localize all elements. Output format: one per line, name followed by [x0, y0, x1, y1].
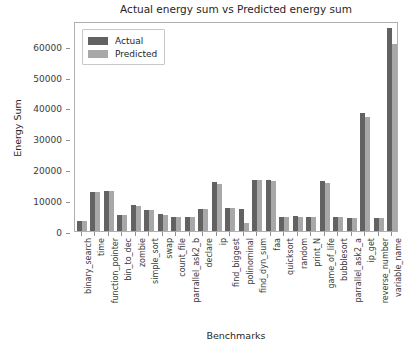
x-tick-label: bin_to_dec	[124, 238, 133, 281]
bar-predicted	[298, 217, 303, 232]
bar-predicted	[82, 221, 87, 231]
x-tick-label: zombie	[138, 238, 147, 267]
bar-predicted	[379, 218, 384, 231]
y-axis: Energy Sum 01000020000300004000050000600…	[0, 22, 74, 233]
y-tick-mark	[66, 79, 70, 80]
bar-group	[306, 23, 316, 231]
x-tick-label: faa	[273, 238, 282, 251]
x-tick-label: quicksort	[286, 238, 295, 275]
x-tick-label: simple_sort	[151, 238, 160, 284]
bar-predicted	[95, 192, 100, 231]
bar-predicted	[257, 180, 262, 231]
bar-group	[266, 23, 276, 231]
x-tick-mark	[229, 232, 230, 236]
x-tick-label: bubblesort	[340, 238, 349, 281]
y-tick-label: 40000	[33, 104, 62, 114]
bar-predicted	[230, 208, 235, 231]
bar-predicted	[311, 217, 316, 232]
bar-group	[360, 23, 370, 231]
x-tick-mark	[94, 232, 95, 236]
x-tick-label: function_pointer	[111, 238, 120, 303]
legend-item: Predicted	[88, 47, 157, 60]
bar-group	[279, 23, 289, 231]
x-tick-label: ip	[219, 238, 228, 245]
x-tick-mark	[216, 232, 217, 236]
bar-predicted	[217, 184, 222, 231]
x-tick-mark	[148, 232, 149, 236]
bar-group	[225, 23, 235, 231]
x-axis: binary_searchtimefunction_pointerbin_to_…	[74, 232, 398, 327]
legend-label: Predicted	[115, 49, 157, 59]
x-axis-label: Benchmarks	[74, 330, 398, 341]
x-tick-label: polinominal	[246, 238, 255, 285]
x-tick-mark	[283, 232, 284, 236]
bar-predicted	[352, 218, 357, 231]
bar-predicted	[163, 215, 168, 231]
x-tick-label: game_of_life	[327, 238, 336, 289]
x-tick-label: declare	[205, 238, 214, 268]
x-tick-mark	[324, 232, 325, 236]
bar-predicted	[325, 183, 330, 231]
bar-group	[347, 23, 357, 231]
bar-predicted	[136, 206, 141, 231]
bar-predicted	[203, 209, 208, 231]
legend-label: Actual	[115, 36, 143, 46]
bar-predicted	[338, 217, 343, 231]
bar-group	[252, 23, 262, 231]
x-tick-label: print_N	[313, 238, 322, 267]
x-tick-mark	[189, 232, 190, 236]
bar-group	[171, 23, 181, 231]
plot-area: ActualPredicted	[74, 22, 398, 232]
x-tick-mark	[256, 232, 257, 236]
y-tick-mark	[66, 202, 70, 203]
x-tick-label: reverse_number	[381, 238, 390, 303]
x-tick-mark	[364, 232, 365, 236]
y-axis-label: Energy Sum	[12, 73, 23, 183]
x-tick-mark	[378, 232, 379, 236]
x-tick-label: find_biggest	[232, 238, 241, 287]
x-tick-label: ip_get	[367, 238, 376, 262]
bar-predicted	[244, 223, 249, 231]
x-tick-mark	[270, 232, 271, 236]
x-tick-mark	[162, 232, 163, 236]
x-tick-mark	[243, 232, 244, 236]
x-tick-label: parrallel_ask2_a	[354, 238, 363, 303]
bar-group	[198, 23, 208, 231]
bar-group	[212, 23, 222, 231]
x-tick-mark	[135, 232, 136, 236]
bar-predicted	[365, 117, 370, 231]
chart-title: Actual energy sum vs Predicted energy su…	[74, 3, 398, 15]
chart-figure: Actual energy sum vs Predicted energy su…	[0, 0, 417, 348]
y-tick-mark	[66, 48, 70, 49]
bar-predicted	[109, 191, 114, 231]
bar-predicted	[284, 217, 289, 231]
x-tick-mark	[81, 232, 82, 236]
bar-group	[320, 23, 330, 231]
x-tick-mark	[121, 232, 122, 236]
y-tick-label: 30000	[33, 135, 62, 145]
x-tick-label: random	[300, 238, 309, 269]
legend-swatch	[88, 37, 108, 45]
bar-group	[185, 23, 195, 231]
legend-item: Actual	[88, 34, 157, 47]
y-tick-label: 60000	[33, 43, 62, 53]
x-tick-mark	[351, 232, 352, 236]
x-tick-mark	[337, 232, 338, 236]
y-tick-label: 0	[56, 228, 62, 238]
bar-group	[374, 23, 384, 231]
bar-predicted	[176, 217, 181, 231]
x-tick-label: swap	[165, 238, 174, 259]
x-tick-label: count_file	[178, 238, 187, 277]
x-tick-label: find_dyn_sum	[259, 238, 268, 293]
bar-predicted	[271, 181, 276, 231]
bar-predicted	[392, 44, 397, 231]
y-tick-mark	[66, 233, 70, 234]
x-tick-label: binary_search	[84, 238, 93, 294]
x-tick-mark	[175, 232, 176, 236]
bar-group	[333, 23, 343, 231]
x-tick-mark	[391, 232, 392, 236]
x-tick-label: variable_name	[394, 238, 403, 297]
chart-legend: ActualPredicted	[82, 29, 165, 65]
x-tick-mark	[202, 232, 203, 236]
x-tick-mark	[297, 232, 298, 236]
